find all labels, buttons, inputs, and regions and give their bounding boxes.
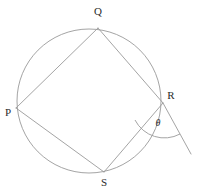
circumcircle [17,29,161,173]
vertex-label-q: Q [94,5,102,17]
chord-rs [104,103,163,172]
chord-sp [16,108,104,172]
geometry-diagram: Q P R S θ [0,0,201,190]
exterior-ray-from-r [163,103,191,154]
geometry-canvas: Q P R S θ [0,0,201,190]
angle-label-theta: θ [156,117,161,128]
vertex-label-r: R [167,89,175,101]
vertex-label-p: P [5,106,11,118]
vertex-label-s: S [101,176,107,188]
chord-pq [16,28,98,108]
chord-qr [98,28,163,103]
